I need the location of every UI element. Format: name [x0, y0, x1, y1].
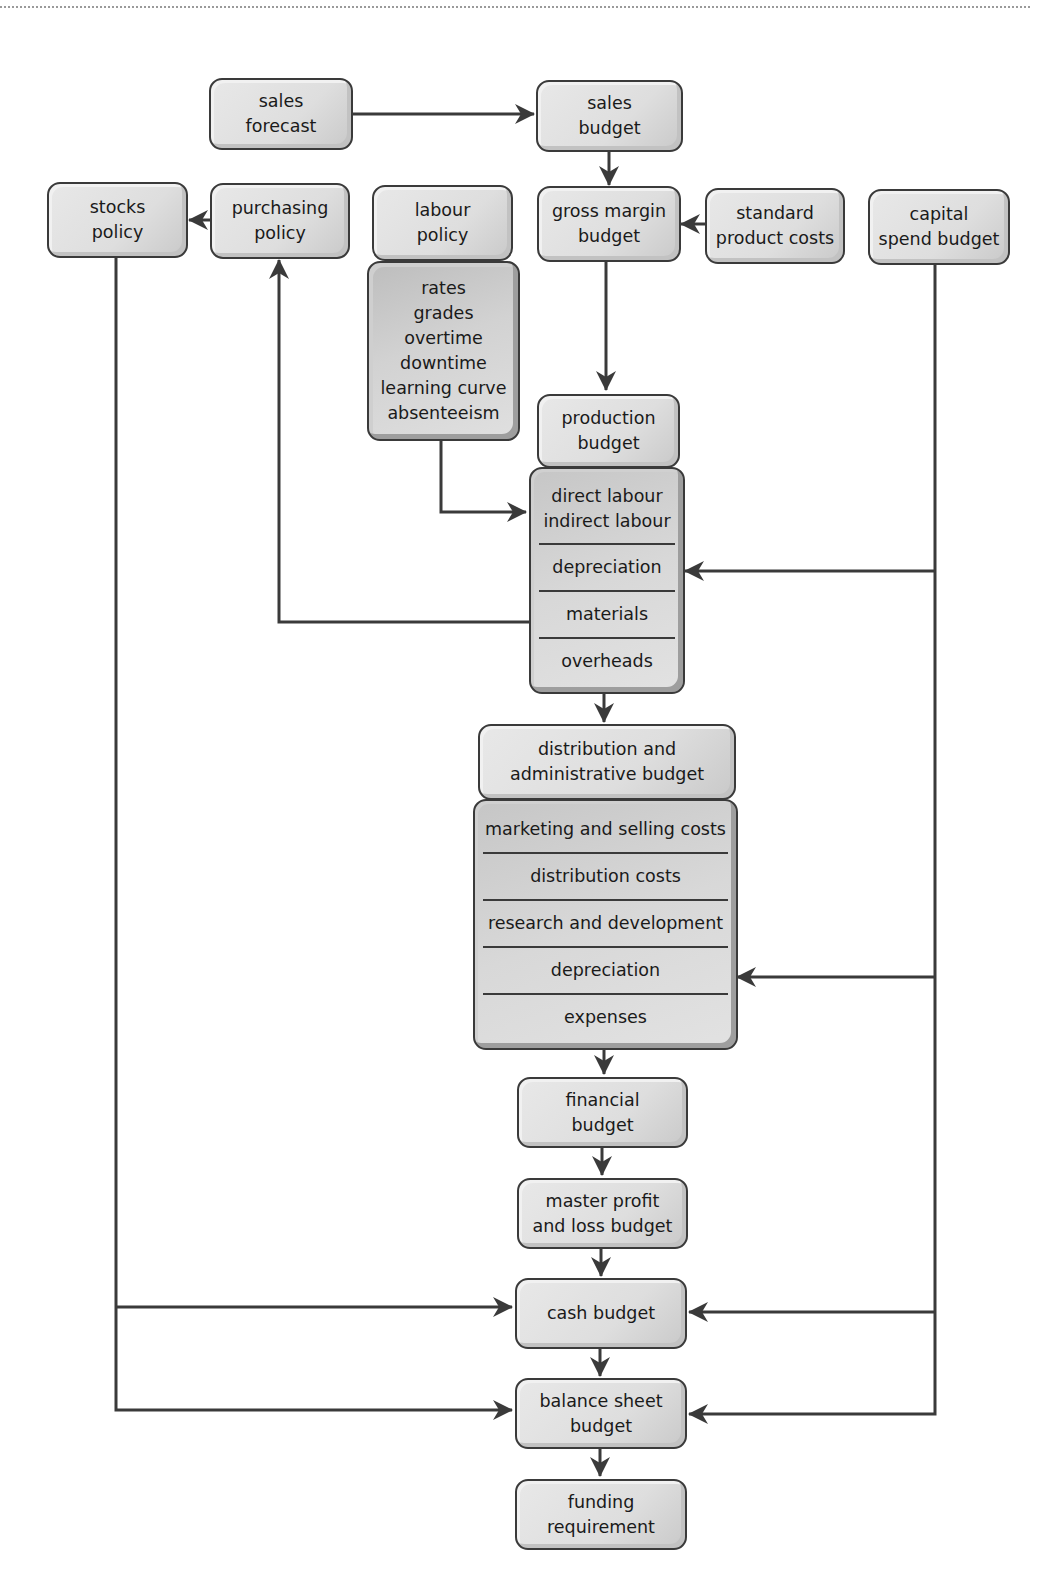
- node-label: master profit: [546, 1189, 660, 1214]
- item-label: depreciation: [551, 958, 660, 983]
- node-label: budget: [577, 431, 639, 456]
- node-label: balance sheet: [539, 1389, 662, 1414]
- item-expenses: expenses: [483, 993, 728, 1040]
- item-depreciation: depreciation: [539, 543, 675, 590]
- node-sales-budget: sales budget: [536, 80, 683, 152]
- node-standard-product-costs: standard product costs: [705, 188, 845, 264]
- node-label: policy: [92, 220, 144, 245]
- node-label: budget: [570, 1414, 632, 1439]
- distribution-cost-items: marketing and selling costs distribution…: [473, 799, 738, 1050]
- node-funding-requirement: funding requirement: [515, 1479, 687, 1550]
- node-master-pl-budget: master profit and loss budget: [517, 1178, 688, 1249]
- node-label: labour: [415, 198, 471, 223]
- node-sales-forecast: sales forecast: [209, 78, 353, 150]
- detail-downtime: downtime: [400, 351, 487, 376]
- item-label: marketing and selling costs: [485, 817, 726, 842]
- item-label: research and development: [488, 911, 723, 936]
- node-stocks-policy: stocks policy: [47, 182, 188, 258]
- node-label: spend budget: [879, 227, 1000, 252]
- item-label: indirect labour: [543, 509, 670, 534]
- node-label: requirement: [547, 1515, 655, 1540]
- item-label: distribution costs: [530, 864, 681, 889]
- node-gross-margin-budget: gross margin budget: [537, 186, 681, 262]
- node-label: budget: [578, 224, 640, 249]
- node-label: gross margin: [552, 199, 666, 224]
- node-label: sales: [587, 91, 632, 116]
- item-overheads: overheads: [539, 637, 675, 684]
- item-depreciation: depreciation: [483, 946, 728, 993]
- item-label: expenses: [564, 1005, 647, 1030]
- node-label: funding: [568, 1490, 635, 1515]
- node-label: production: [562, 406, 656, 431]
- node-label: stocks: [90, 195, 146, 220]
- node-labour-policy-details: rates grades overtime downtime learning …: [367, 261, 520, 441]
- node-label: administrative budget: [510, 762, 704, 787]
- item-research-development: research and development: [483, 899, 728, 946]
- node-label: product costs: [716, 226, 834, 251]
- node-label: cash budget: [547, 1301, 655, 1326]
- node-capital-spend-budget: capital spend budget: [868, 189, 1010, 265]
- node-label: policy: [417, 223, 469, 248]
- detail-grades: grades: [413, 301, 473, 326]
- item-materials: materials: [539, 590, 675, 637]
- node-label: distribution and: [538, 737, 676, 762]
- node-distribution-admin-budget: distribution and administrative budget: [478, 724, 736, 800]
- node-financial-budget: financial budget: [517, 1077, 688, 1148]
- item-label: depreciation: [552, 555, 661, 580]
- node-labour-policy: labour policy: [372, 185, 513, 261]
- node-label: financial: [566, 1088, 640, 1113]
- node-label: capital: [910, 202, 969, 227]
- item-distribution-costs: distribution costs: [483, 852, 728, 899]
- node-label: sales: [259, 89, 304, 114]
- detail-learning-curve: learning curve: [381, 376, 507, 401]
- detail-rates: rates: [421, 276, 466, 301]
- node-balance-sheet-budget: balance sheet budget: [515, 1378, 687, 1449]
- item-labour: direct labour indirect labour: [539, 475, 675, 543]
- detail-absenteeism: absenteeism: [387, 401, 499, 426]
- node-label: budget: [571, 1113, 633, 1138]
- item-label: overheads: [561, 649, 653, 674]
- node-label: and loss budget: [533, 1214, 673, 1239]
- node-label: policy: [254, 221, 306, 246]
- production-cost-items: direct labour indirect labour depreciati…: [529, 467, 685, 694]
- node-cash-budget: cash budget: [515, 1278, 687, 1349]
- node-purchasing-policy: purchasing policy: [210, 183, 350, 259]
- item-label: direct labour: [551, 484, 662, 509]
- node-label: standard: [736, 201, 814, 226]
- item-marketing-selling: marketing and selling costs: [483, 807, 728, 852]
- item-label: materials: [566, 602, 648, 627]
- node-label: forecast: [246, 114, 317, 139]
- node-production-budget: production budget: [537, 394, 680, 468]
- node-label: purchasing: [232, 196, 329, 221]
- node-label: budget: [578, 116, 640, 141]
- detail-overtime: overtime: [404, 326, 483, 351]
